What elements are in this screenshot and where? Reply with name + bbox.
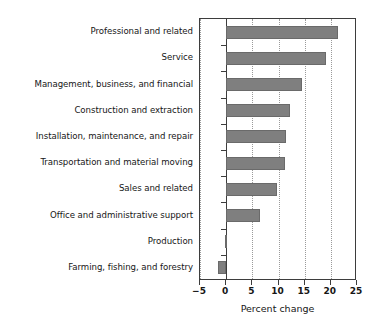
category-tick [221, 229, 226, 230]
category-tick [221, 255, 226, 256]
x-axis: −50510152025 [199, 280, 356, 304]
category-tick [221, 45, 226, 46]
x-tick-label: 0 [222, 286, 228, 297]
category-label: Installation, maintenance, and repair [0, 131, 193, 141]
category-tick [221, 202, 226, 203]
category-label: Office and administrative support [0, 210, 193, 220]
bar [226, 157, 285, 170]
x-axis-title: Percent change [199, 303, 356, 315]
bar [226, 130, 286, 143]
category-tick [221, 176, 226, 177]
bar [226, 52, 326, 65]
bar [226, 78, 302, 91]
category-tick [221, 71, 226, 72]
x-tick-mark [199, 280, 200, 285]
x-tick-mark [356, 280, 357, 285]
bar [226, 209, 259, 222]
x-tick-mark [330, 280, 331, 285]
category-label: Management, business, and financial [0, 79, 193, 89]
x-tick-label: 5 [248, 286, 254, 297]
bar [226, 26, 337, 39]
category-label: Production [0, 236, 193, 246]
category-label: Construction and extraction [0, 105, 193, 115]
x-tick-label: 10 [271, 286, 284, 297]
category-label: Professional and related [0, 26, 193, 36]
category-axis: Professional and relatedServiceManagemen… [0, 18, 193, 280]
category-tick [221, 150, 226, 151]
x-tick-mark [251, 280, 252, 285]
category-label: Farming, fishing, and forestry [0, 262, 193, 272]
bar-chart-figure: Professional and relatedServiceManagemen… [0, 0, 374, 326]
gridline--5 [200, 19, 202, 279]
x-tick-label: 20 [324, 286, 337, 297]
bar [218, 261, 226, 274]
x-tick-mark [304, 280, 305, 285]
bar [226, 104, 290, 117]
category-label: Sales and related [0, 183, 193, 193]
plot-area [199, 18, 356, 280]
x-tick-label: 25 [350, 286, 363, 297]
category-tick [221, 124, 226, 125]
x-tick-label: −5 [192, 286, 206, 297]
x-tick-mark [278, 280, 279, 285]
bar [226, 183, 277, 196]
category-label: Service [0, 52, 193, 62]
x-tick-label: 15 [297, 286, 310, 297]
gridline-20 [331, 19, 333, 279]
category-label: Transportation and material moving [0, 157, 193, 167]
x-tick-mark [225, 280, 226, 285]
bar [225, 235, 227, 248]
category-tick [221, 98, 226, 99]
